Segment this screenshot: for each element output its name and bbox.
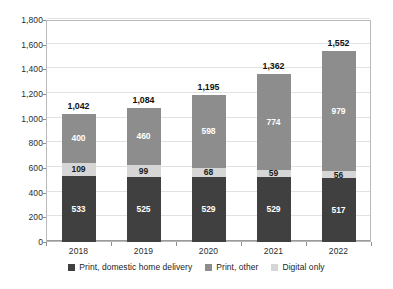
x-axis-tick-mark — [46, 242, 47, 246]
y-axis-tick-label: 1,600 — [3, 40, 43, 50]
bar-segment[interactable]: 598 — [192, 95, 226, 169]
bar-segment[interactable]: 529 — [192, 177, 226, 242]
bar-segment[interactable]: 774 — [257, 74, 291, 169]
y-axis-tick-label: 0 — [3, 237, 43, 247]
bar-group-2022[interactable]: 979565171,552 — [322, 51, 356, 242]
bar-total-label: 1,084 — [132, 95, 154, 105]
y-axis-tick-label: 800 — [3, 138, 43, 148]
bar-group-2018[interactable]: 4001095331,042 — [62, 114, 96, 243]
bar-total-label: 1,042 — [67, 101, 89, 111]
bar-segment-value: 68 — [204, 168, 213, 177]
bar-segment[interactable]: 529 — [257, 177, 291, 242]
bar-segment-value: 525 — [136, 205, 150, 214]
legend-label: Digital only — [282, 262, 324, 272]
legend-item[interactable]: Print, domestic home delivery — [68, 262, 192, 272]
bar-segment-value: 598 — [201, 127, 215, 136]
legend-label: Print, other — [216, 262, 258, 272]
bar-total-label: 1,552 — [327, 38, 349, 48]
bar-segment[interactable]: 56 — [322, 171, 356, 178]
x-axis-tick-mark — [306, 242, 307, 246]
bar-segment[interactable]: 400 — [62, 114, 96, 163]
bar-segment[interactable]: 99 — [127, 165, 161, 177]
y-axis-tick-label: 1,200 — [3, 89, 43, 99]
stacked-bar-chart: 02004006008001,0001,2001,4001,6001,800 4… — [0, 0, 393, 289]
bar-segment[interactable]: 533 — [62, 176, 96, 242]
y-axis-tick-label: 1,000 — [3, 114, 43, 124]
chart-legend: Print, domestic home deliveryPrint, othe… — [0, 262, 393, 272]
legend-label: Print, domestic home delivery — [79, 262, 192, 272]
bar-segment-value: 774 — [266, 118, 280, 127]
bar-segment-value: 533 — [71, 205, 85, 214]
bar-group-2019[interactable]: 460995251,084 — [127, 108, 161, 242]
legend-swatch-icon — [68, 264, 75, 271]
y-axis-tick-label: 1,800 — [3, 15, 43, 25]
y-axis-tick-label: 600 — [3, 163, 43, 173]
x-axis-tick-label: 2020 — [179, 246, 239, 256]
legend-item[interactable]: Print, other — [205, 262, 258, 272]
bar-segment[interactable]: 109 — [62, 163, 96, 176]
bar-segment-value: 529 — [201, 205, 215, 214]
x-axis-tick-mark — [111, 242, 112, 246]
x-axis-tick-label: 2022 — [309, 246, 369, 256]
gridline — [47, 18, 370, 19]
bar-segment[interactable]: 460 — [127, 108, 161, 165]
bar-segment-value: 109 — [71, 165, 85, 174]
legend-swatch-icon — [271, 264, 278, 271]
bar-segment-value: 99 — [139, 167, 148, 176]
x-axis-tick-label: 2018 — [49, 246, 109, 256]
x-axis-tick-mark — [241, 242, 242, 246]
x-axis-tick-label: 2021 — [244, 246, 304, 256]
bar-segment[interactable]: 517 — [322, 178, 356, 242]
bar-segment[interactable]: 68 — [192, 168, 226, 176]
legend-item[interactable]: Digital only — [271, 262, 324, 272]
bar-group-2020[interactable]: 598685291,195 — [192, 95, 226, 242]
bar-group-2021[interactable]: 774595291,362 — [257, 74, 291, 242]
bar-segment[interactable]: 525 — [127, 177, 161, 242]
y-axis-tick-label: 1,400 — [3, 64, 43, 74]
x-axis-tick-label: 2019 — [114, 246, 174, 256]
y-axis-tick-label: 200 — [3, 212, 43, 222]
bar-total-label: 1,195 — [197, 82, 219, 92]
bar-segment-value: 529 — [266, 205, 280, 214]
bar-segment-value: 460 — [136, 132, 150, 141]
bar-segment-value: 517 — [331, 206, 345, 215]
x-axis-tick-mark — [371, 242, 372, 246]
legend-swatch-icon — [205, 264, 212, 271]
bar-segment-value: 979 — [331, 107, 345, 116]
bar-total-label: 1,362 — [262, 61, 284, 71]
bar-series-layer: 4001095331,042460995251,084598685291,195… — [46, 20, 371, 242]
bar-segment[interactable]: 59 — [257, 170, 291, 177]
bar-segment-value: 400 — [71, 134, 85, 143]
x-axis-tick-mark — [176, 242, 177, 246]
y-axis-tick-label: 400 — [3, 188, 43, 198]
bar-segment[interactable]: 979 — [322, 51, 356, 172]
